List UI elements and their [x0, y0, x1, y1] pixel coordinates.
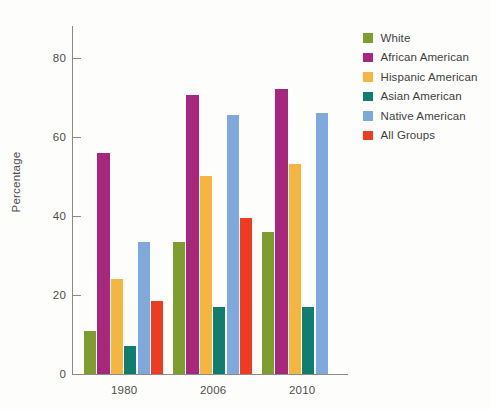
y-tick-label: 40 [53, 210, 66, 222]
legend-label: Hispanic American [381, 71, 478, 83]
plot-area [72, 26, 348, 374]
legend-item-hispanic-american: Hispanic American [363, 67, 487, 87]
y-tick-label: 60 [53, 131, 66, 143]
legend-swatch-icon [363, 92, 373, 102]
bar-2010-white [262, 232, 274, 374]
bar-2006-african-american [186, 95, 198, 374]
legend-swatch-icon [363, 72, 373, 82]
legend-label: African American [381, 51, 470, 63]
bar-group-1980 [84, 26, 164, 374]
bar-2010-hispanic-american [289, 164, 301, 374]
bar-2010-african-american [275, 89, 287, 374]
y-tick-label: 20 [53, 289, 66, 301]
bar-1980-african-american [97, 153, 109, 374]
legend-label: Native American [381, 110, 466, 122]
legend-swatch-icon [363, 111, 373, 121]
legend-item-all-groups: All Groups [363, 126, 487, 146]
legend-label: Asian American [381, 90, 462, 102]
bar-1980-hispanic-american [111, 279, 123, 374]
bar-1980-all-groups [151, 301, 163, 374]
bar-2010-asian-american [302, 307, 314, 374]
bar-2006-asian-american [213, 307, 225, 374]
x-axis-line [72, 374, 348, 375]
y-tick-mark [72, 374, 81, 375]
bar-2006-white [173, 242, 185, 374]
legend-label: White [381, 32, 411, 44]
legend-swatch-icon [363, 53, 373, 63]
legend-item-white: White [363, 28, 487, 48]
chart-legend: WhiteAfrican AmericanHispanic AmericanAs… [363, 28, 487, 145]
bar-2006-hispanic-american [200, 176, 212, 374]
bar-group-2006 [173, 26, 253, 374]
legend-item-african-american: African American [363, 48, 487, 68]
bar-1980-white [84, 331, 96, 375]
bar-group-2010 [262, 26, 342, 374]
bar-2010-native-american [316, 113, 328, 374]
legend-label: All Groups [381, 129, 436, 141]
bar-chart: Percentage 020406080 198020062010 WhiteA… [0, 0, 491, 409]
x-tick-label-2006: 2006 [173, 384, 253, 396]
x-tick-label-1980: 1980 [84, 384, 164, 396]
bar-2006-native-american [227, 115, 239, 374]
legend-swatch-icon [363, 33, 373, 43]
legend-item-asian-american: Asian American [363, 87, 487, 107]
legend-item-native-american: Native American [363, 106, 487, 126]
bar-2006-all-groups [240, 218, 252, 374]
bar-1980-asian-american [124, 346, 136, 374]
y-tick-label: 80 [53, 52, 66, 64]
y-tick-label: 0 [59, 368, 66, 380]
y-axis-title: Percentage [10, 152, 22, 213]
legend-swatch-icon [363, 131, 373, 141]
bar-1980-native-american [138, 242, 150, 374]
x-tick-label-2010: 2010 [262, 384, 342, 396]
